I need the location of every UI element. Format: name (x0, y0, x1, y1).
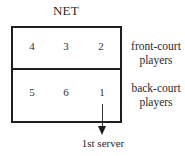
front-court-label-line1: front-court (126, 39, 185, 53)
position-6: 6 (58, 86, 74, 98)
front-court-label: front-court players (126, 39, 185, 67)
back-court-label: back-court players (126, 81, 185, 109)
front-court-label-line2: players (126, 53, 185, 67)
position-5: 5 (24, 86, 40, 98)
server-arrow-line (102, 104, 103, 128)
position-3: 3 (58, 40, 74, 52)
back-court-label-line2: players (126, 95, 185, 109)
position-2: 2 (93, 40, 109, 52)
net-label: NET (50, 3, 82, 19)
court-divider (13, 68, 120, 70)
arrow-down-icon (98, 126, 106, 135)
position-1: 1 (94, 86, 110, 98)
position-4: 4 (24, 40, 40, 52)
first-server-label: 1st server (72, 137, 134, 149)
back-court-label-line1: back-court (126, 81, 185, 95)
